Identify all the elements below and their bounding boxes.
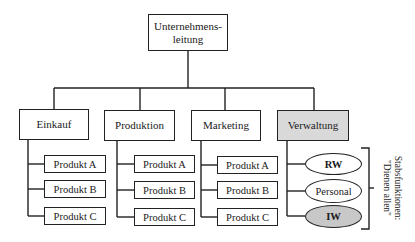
product-label: Produkt C [54,211,97,222]
product-label: Produkt B [143,185,186,196]
product-label: Produkt A [226,160,269,171]
staff-label: Personal [315,186,351,197]
department-label: Verwaltung [288,119,339,132]
staff-ellipse-rw: RW [305,153,362,175]
product-label: Produkt C [143,212,186,223]
product-box: Produkt A [134,155,195,173]
product-label: Produkt B [226,185,269,196]
annotation-line1: Stabsfunktionen: [392,156,403,220]
product-box: Produkt A [44,155,106,173]
product-box: Produkt B [134,181,195,199]
product-box: Produkt B [217,181,278,199]
product-label: Produkt C [226,212,269,223]
department-label: Produktion [115,119,164,132]
department-verwaltung: Verwaltung [277,110,349,141]
product-box: Produkt C [44,207,106,225]
department-label: Marketing [203,119,249,132]
top-management-label-line1: Unternehmens- [154,20,222,33]
top-management-label-line2: leitung [173,33,204,46]
product-box: Produkt A [217,156,278,174]
staff-label: RW [325,159,343,170]
annotation-line2: "Dienen allen" [381,156,392,220]
product-label: Produkt A [143,159,186,170]
product-box: Produkt C [217,208,278,226]
staff-ellipse-personal: Personal [305,179,362,203]
staff-label: IW [326,211,341,222]
department-marketing: Marketing [191,110,261,141]
product-box: Produkt B [44,180,106,198]
product-label: Produkt B [54,184,97,195]
product-label: Produkt A [54,159,97,170]
department-produktion: Produktion [104,110,175,141]
staff-ellipse-iw: IW [305,205,362,228]
staff-functions-annotation: Stabsfunktionen: "Dienen allen" [381,156,403,220]
department-label: Einkauf [37,118,72,131]
department-einkauf: Einkauf [19,109,89,140]
top-management-box: Unternehmens- leitung [148,14,228,51]
product-box: Produkt C [134,208,195,226]
